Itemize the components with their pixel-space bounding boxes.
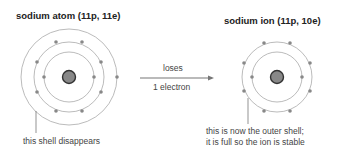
electron [288,109,292,113]
electron [42,75,46,79]
ion-annotation-line-2: it is full so the ion is stable [206,137,305,148]
electron [80,40,84,44]
electron [54,40,58,44]
atom-annotation: this shell disappears [23,136,100,147]
electron [308,89,312,93]
electron-outer [115,75,119,79]
electron [54,109,58,113]
electron [288,41,292,45]
sodium-ion [242,41,312,124]
arrow-label-bottom: 1 electron [153,82,190,93]
electron [35,90,39,94]
electron [242,89,246,93]
electron [300,75,304,79]
electron [99,90,103,94]
electron [262,41,266,45]
electron [92,75,96,79]
ion-nucleus [271,71,284,84]
electron [242,61,246,65]
electron [250,75,254,79]
electron [308,61,312,65]
ion-annotation-line-1: this is now the outer shell; [206,126,304,137]
electron [80,109,84,113]
electron [35,60,39,64]
loses-electron-arrow [140,76,214,81]
electron [262,109,266,113]
arrow-label-top: loses [163,63,183,74]
sodium-atom [21,29,119,133]
atom-nucleus [63,71,76,84]
electron [99,60,103,64]
